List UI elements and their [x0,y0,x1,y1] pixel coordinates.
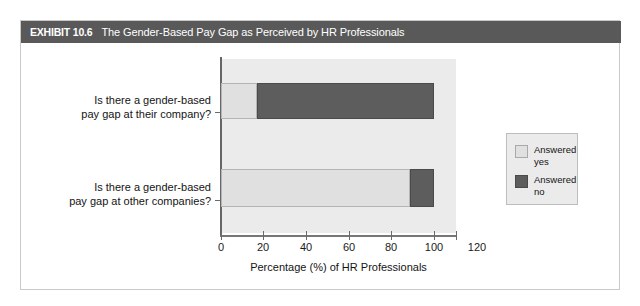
legend-label-answered-yes: Answered yes [534,144,576,167]
exhibit-frame: EXHIBIT 10.6 The Gender-Based Pay Gap as… [20,20,620,290]
legend-item-answered-yes: Answered yes [515,144,576,167]
x-axis-tick-label-20: 20 [243,241,283,253]
bar-segment-other-companies-no [410,169,434,207]
x-axis-tick-label-0: 0 [201,241,241,253]
legend-item-answered-no: Answered no [515,174,576,197]
exhibit-header-bar: EXHIBIT 10.6 The Gender-Based Pay Gap as… [21,21,621,43]
x-axis-title: Percentage (%) of HR Professionals [221,261,456,273]
x-axis-tick-label-40: 40 [286,241,326,253]
bar-segment-their-company-no [257,83,434,119]
x-axis-tick-100 [434,231,435,240]
bar-segment-other-companies-yes [221,169,410,207]
x-axis-tick-80 [391,231,392,240]
legend-label-answered-no: Answered no [534,174,576,197]
x-axis-tick-label-120: 120 [457,241,497,253]
x-axis-tick-label-60: 60 [329,241,369,253]
x-axis-tick-label-100: 100 [414,241,454,253]
chart-canvas: 0 20 40 60 80 100 120 Is there a gender-… [21,43,621,290]
legend-swatch-answered-yes-icon [515,145,528,158]
x-axis-tick-40 [306,231,307,240]
category-label-other-companies: Is there a gender-based pay gap at other… [21,180,211,208]
legend-swatch-answered-no-icon [515,175,528,188]
x-axis-tick-label-80: 80 [371,241,411,253]
chart-legend: Answered yes Answered no [506,133,578,205]
exhibit-title: The Gender-Based Pay Gap as Perceived by… [101,26,404,38]
category-label-their-company: Is there a gender-based pay gap at their… [21,93,211,121]
x-axis-tick-120 [456,231,457,240]
x-axis-tick-60 [349,231,350,240]
bar-segment-their-company-yes [221,83,257,119]
x-axis-line [220,235,456,237]
x-axis-tick-20 [263,231,264,240]
exhibit-number: EXHIBIT 10.6 [30,26,92,38]
x-axis-tick-0 [221,231,222,240]
